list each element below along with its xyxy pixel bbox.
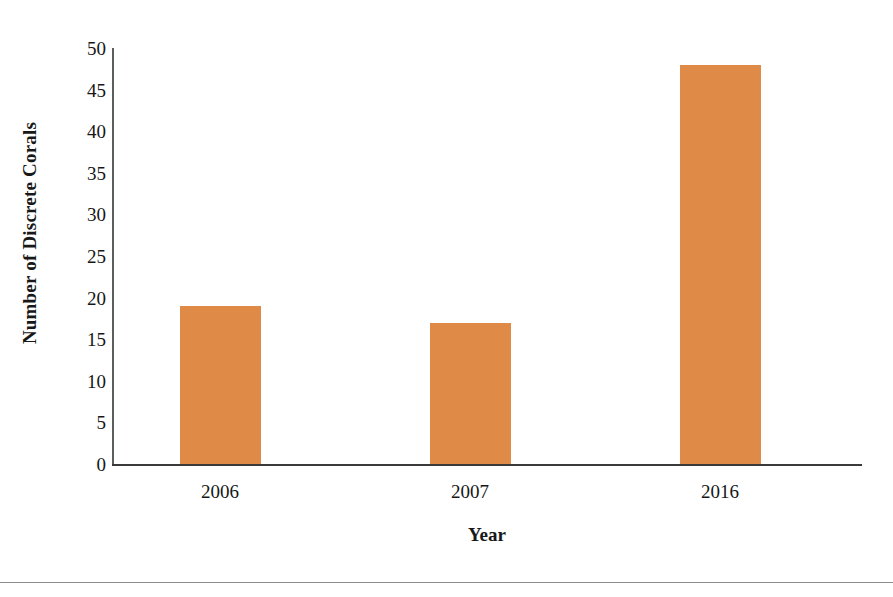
bar: [180, 306, 261, 464]
x-axis-tick-label: 2007: [400, 480, 540, 504]
y-axis-tick-label: 30: [60, 205, 106, 224]
y-axis-tick-label: 50: [60, 39, 106, 58]
y-axis-tick-label: 45: [60, 81, 106, 100]
y-axis-tick-label: 15: [60, 330, 106, 349]
plot-area: [112, 48, 862, 466]
y-axis-tick-labels: 05101520253035404550: [48, 48, 106, 466]
y-axis-tick-label: 10: [60, 372, 106, 391]
y-axis-tick-label: 40: [60, 122, 106, 141]
x-axis-tick-label: 2006: [150, 480, 290, 504]
y-axis-tick-label: 5: [60, 413, 106, 432]
x-axis-line: [112, 464, 862, 466]
y-axis-tick-label: 0: [60, 455, 106, 474]
y-axis-tick-label: 35: [60, 164, 106, 183]
x-axis-title: Year: [112, 524, 862, 546]
bar-chart-figure: Number of Discrete Corals 05101520253035…: [0, 0, 893, 597]
bar: [680, 65, 761, 464]
bar: [430, 323, 511, 464]
y-axis-line: [112, 48, 114, 466]
y-axis-tick-label: 25: [60, 247, 106, 266]
x-axis-tick-labels: 200620072016: [112, 480, 862, 508]
page-divider-rule: [0, 582, 893, 583]
y-axis-title-label: Number of Discrete Corals: [19, 122, 41, 344]
y-axis-tick-label: 20: [60, 289, 106, 308]
x-axis-tick-label: 2016: [650, 480, 790, 504]
